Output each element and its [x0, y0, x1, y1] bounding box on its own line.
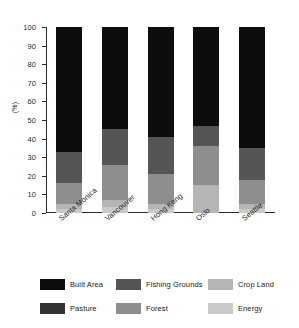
y-axis-tick-label: 100 — [23, 23, 36, 32]
y-axis-tick: 60 — [42, 101, 46, 102]
y-axis-tick: 50 — [42, 120, 46, 121]
y-axis-tick: 80 — [42, 64, 46, 65]
bar-segment-built-area — [102, 27, 128, 129]
y-axis-tick-label: 20 — [27, 171, 36, 180]
y-axis-tick-label: 60 — [27, 97, 36, 106]
x-axis-tick-labels: Santa MonicaVancouverHong KongOsloSeattl… — [46, 216, 275, 264]
bar-santa-monica — [56, 27, 82, 213]
y-axis-line — [46, 27, 47, 213]
plot-area: 0102030405060708090100 — [46, 27, 275, 213]
legend-label: Forest — [146, 304, 168, 313]
legend-item-energy[interactable]: Energy — [208, 303, 290, 314]
legend-item-built-area[interactable]: Built Area — [40, 279, 116, 290]
bar-segment-fishing-grounds — [193, 126, 219, 146]
y-axis-tick: 20 — [42, 176, 46, 177]
stacked-bar-chart: (%) 0102030405060708090100 Santa MonicaV… — [0, 0, 299, 328]
legend-label: Fishing Grounds — [146, 280, 203, 289]
legend-item-fishing-grounds[interactable]: Fishing Grounds — [116, 279, 208, 290]
y-axis-tick: 0 — [42, 213, 46, 214]
bar-hong-kong — [148, 27, 174, 213]
y-axis-tick: 100 — [42, 27, 46, 28]
y-axis-tick-label: 70 — [27, 78, 36, 87]
bar-oslo — [193, 27, 219, 213]
bar-segment-forest — [239, 180, 265, 204]
y-axis-tick-label: 0 — [32, 209, 36, 218]
bar-segment-fishing-grounds — [148, 137, 174, 174]
y-axis-tick-label: 30 — [27, 153, 36, 162]
bar-segment-forest — [193, 146, 219, 185]
legend-swatch — [116, 303, 141, 314]
legend-swatch — [40, 279, 65, 290]
y-axis-tick: 90 — [42, 46, 46, 47]
y-axis-tick-label: 10 — [27, 190, 36, 199]
legend-label: Crop Land — [238, 280, 274, 289]
y-axis-tick-label: 90 — [27, 41, 36, 50]
y-axis-tick-label: 80 — [27, 60, 36, 69]
bar-segment-built-area — [148, 27, 174, 137]
legend-swatch — [208, 303, 233, 314]
legend-item-forest[interactable]: Forest — [116, 303, 208, 314]
legend-item-pasture[interactable]: Pasture — [40, 303, 116, 314]
legend-item-crop-land[interactable]: Crop Land — [208, 279, 290, 290]
y-axis-tick: 40 — [42, 139, 46, 140]
y-axis-tick: 70 — [42, 83, 46, 84]
bar-segment-built-area — [56, 27, 82, 152]
y-axis-label: (%) — [11, 96, 18, 120]
y-axis-tick: 10 — [42, 194, 46, 195]
bar-seattle — [239, 27, 265, 213]
y-axis-tick-label: 40 — [27, 134, 36, 143]
y-axis-tick-label: 50 — [27, 116, 36, 125]
legend-swatch — [208, 279, 233, 290]
bar-vancouver — [102, 27, 128, 213]
bar-segment-forest — [102, 165, 128, 200]
legend-label: Built Area — [70, 280, 103, 289]
bar-segment-fishing-grounds — [239, 148, 265, 180]
chart-legend: Built AreaFishing GroundsCrop LandPastur… — [40, 272, 290, 320]
bar-segment-fishing-grounds — [102, 129, 128, 164]
bar-segment-built-area — [193, 27, 219, 126]
bar-segment-built-area — [239, 27, 265, 148]
bar-segment-fishing-grounds — [56, 152, 82, 184]
legend-label: Pasture — [70, 304, 97, 313]
y-axis-tick: 30 — [42, 157, 46, 158]
legend-label: Energy — [238, 304, 262, 313]
legend-swatch — [116, 279, 141, 290]
legend-swatch — [40, 303, 65, 314]
